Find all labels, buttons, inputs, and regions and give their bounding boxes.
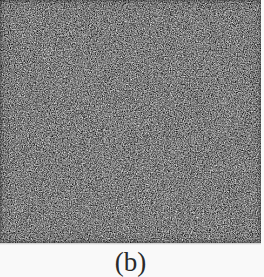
noise-image bbox=[0, 0, 261, 243]
noise-bottom-edge bbox=[0, 243, 261, 245]
noise-raster-svg bbox=[0, 0, 261, 243]
figure-caption: (b) bbox=[0, 248, 261, 277]
figure-panel: (b) bbox=[0, 0, 264, 277]
